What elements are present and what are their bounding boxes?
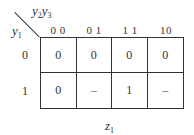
column-header-11: 1 1 <box>112 24 148 36</box>
cell-r0-c11: 0 <box>112 38 148 73</box>
karnaugh-map-grid: 0 0 0 0 0 – 1 – <box>40 37 184 109</box>
cell-r0-c01: 0 <box>77 38 113 73</box>
cell-r0-c10: 0 <box>148 38 184 73</box>
column-header-01: 0 1 <box>76 24 112 36</box>
column-header-10: 10 <box>148 24 184 36</box>
cell-r1-c00: 0 <box>41 73 77 108</box>
row-header-0: 0 <box>18 48 32 63</box>
column-variables-label: y2y3 <box>32 4 52 20</box>
row-variable-label: y1 <box>12 24 22 40</box>
row-header-1: 1 <box>18 84 32 99</box>
column-header-00: 0 0 <box>40 24 76 36</box>
cell-r1-c10: – <box>148 73 184 108</box>
cell-r0-c00: 0 <box>41 38 77 73</box>
map-output-label: z1 <box>105 119 114 135</box>
cell-r1-c11: 1 <box>112 73 148 108</box>
cell-r1-c01: – <box>77 73 113 108</box>
